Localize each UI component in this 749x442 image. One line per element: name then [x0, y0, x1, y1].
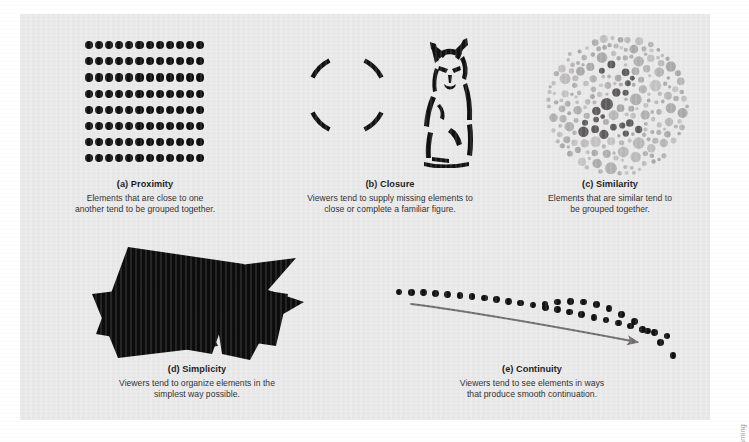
proximity-dot: [115, 90, 123, 98]
similarity-dot-light: [657, 158, 661, 162]
similarity-dot-light: [624, 37, 630, 43]
proximity-dot: [85, 106, 93, 114]
similarity-dot-dark: [582, 120, 588, 126]
similarity-dot-light: [590, 94, 595, 99]
similarity-dot-light: [656, 56, 660, 60]
similarity-dot-light: [661, 100, 665, 104]
proximity-dot: [95, 106, 103, 114]
proximity-dot: [146, 122, 154, 130]
similarity-dot-light: [643, 103, 648, 108]
similarity-dot-light: [677, 132, 681, 136]
similarity-dot-light: [650, 130, 654, 134]
similarity-dot-light: [605, 82, 612, 89]
caption-closure: (b) Closure Viewers tend to supply missi…: [260, 179, 520, 215]
figure-panel: (a) Proximity Elements that are close to…: [20, 14, 710, 420]
similarity-dot-light: [620, 46, 624, 50]
similarity-dot-dark: [599, 68, 605, 74]
proximity-dot: [85, 122, 93, 130]
similarity-dot-light: [647, 93, 650, 96]
similarity-dot-light: [561, 90, 568, 97]
similarity-dot-dark: [626, 119, 634, 127]
similarity-dot-light: [574, 95, 577, 98]
similarity-dot-light: [628, 139, 632, 143]
similarity-dot-light: [635, 37, 643, 45]
proximity-dot: [156, 57, 164, 65]
proximity-dot: [196, 106, 204, 114]
proximity-dot: [135, 90, 143, 98]
proximity-dot: [115, 122, 123, 130]
similarity-dot-light: [625, 171, 629, 175]
similarity-dot-light: [661, 54, 664, 57]
similarity-dot-light: [596, 46, 601, 51]
similarity-dot-light: [571, 139, 578, 146]
similarity-dot-light: [558, 65, 566, 73]
similarity-dot-light: [638, 168, 641, 171]
panel-continuity: (e) Continuity Viewers tend to see eleme…: [365, 214, 710, 420]
similarity-dot-light: [654, 67, 664, 77]
similarity-dot-light: [590, 52, 595, 57]
similarity-dot-light: [601, 75, 605, 79]
similarity-dot-light: [563, 136, 570, 143]
caption-title-proximity: (a) Proximity: [30, 179, 260, 191]
proximity-dot: [156, 41, 164, 49]
similarity-dot-light: [574, 118, 579, 123]
similarity-dot-light: [661, 153, 666, 158]
similarity-dot-light: [619, 83, 623, 87]
similarity-dot-light: [551, 128, 555, 132]
similarity-dot-light: [664, 131, 671, 138]
similarity-dot-dark: [578, 127, 588, 137]
similarity-dot-light: [631, 132, 635, 136]
proximity-dot: [196, 154, 204, 162]
similarity-dot-light: [624, 97, 628, 101]
proximity-dot: [186, 106, 194, 114]
similarity-dot-light: [557, 132, 563, 138]
proximity-dot-grid: [84, 37, 205, 167]
similarity-dot-light: [648, 74, 651, 77]
similarity-dot-light: [630, 166, 634, 170]
similarity-dot-light: [578, 49, 582, 53]
similarity-dot-light: [614, 43, 619, 48]
similarity-dot-light: [560, 73, 571, 84]
cat-silhouette-icon: [406, 16, 490, 168]
similarity-dot-light: [635, 107, 638, 110]
similarity-dot-dark: [592, 107, 601, 116]
copyright-text: Cengage Learning: [739, 424, 747, 442]
proximity-dot: [146, 138, 154, 146]
similarity-dot-light: [673, 96, 679, 102]
similarity-dot-light: [671, 138, 677, 144]
similarity-dot-light: [651, 117, 656, 122]
similarity-dot-light: [575, 147, 581, 153]
similarity-dot-light: [644, 122, 648, 126]
similarity-dot-light: [613, 155, 618, 160]
similarity-dot-light: [650, 110, 654, 114]
similarity-dot-light: [591, 87, 597, 93]
proximity-dot: [115, 57, 123, 65]
similarity-dot-light: [549, 114, 557, 122]
similarity-dot-light: [585, 46, 589, 50]
proximity-dot: [196, 57, 204, 65]
proximity-dot: [156, 122, 164, 130]
similarity-dot-light: [618, 37, 624, 43]
similarity-dot-light: [566, 58, 570, 62]
proximity-dot: [156, 138, 164, 146]
proximity-dot: [135, 73, 143, 81]
caption-similarity: (c) Similarity Elements that are similar…: [505, 179, 715, 215]
similarity-dot-light: [605, 93, 608, 96]
similarity-dot-light: [668, 85, 671, 88]
similarity-dot-plate-icon: [542, 30, 692, 180]
similarity-dot-light: [554, 71, 559, 76]
copyright-credit: ©Cengage Learning: [739, 424, 747, 442]
similarity-dot-dark: [619, 122, 625, 128]
proximity-dot: [125, 106, 133, 114]
similarity-dot-dark: [610, 124, 617, 131]
similarity-dot-light: [630, 113, 636, 119]
similarity-dot-dark: [623, 130, 629, 136]
similarity-dot-light: [681, 96, 687, 102]
proximity-dot: [95, 57, 103, 65]
similarity-dot-light: [592, 100, 596, 104]
proximity-dot: [115, 154, 123, 162]
proximity-dot: [176, 73, 184, 81]
similarity-dot-light: [612, 151, 615, 154]
proximity-dot: [176, 41, 184, 49]
broken-circle-icon: [302, 50, 392, 140]
